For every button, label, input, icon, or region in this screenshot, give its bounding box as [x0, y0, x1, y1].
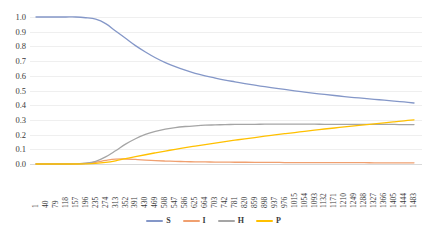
x-axis-tick-label: 430 [141, 168, 149, 208]
x-axis-tick-label: 976 [281, 168, 289, 208]
y-axis-tick-label: 0.3 [15, 116, 26, 125]
y-axis-tick-label: 0.5 [15, 86, 26, 95]
x-axis-tick-label: 586 [181, 168, 189, 208]
x-axis-tick-label: 391 [131, 168, 139, 208]
x-axis-tick-label: 898 [261, 168, 269, 208]
legend-label: I [203, 217, 206, 225]
x-axis-tick-label: 1015 [291, 168, 299, 208]
x-axis-tick-label: 1093 [311, 168, 319, 208]
series-line-h [36, 124, 414, 164]
chart-legend: SIHP [0, 217, 427, 225]
x-axis-tick-label: 547 [171, 168, 179, 208]
plot-area-wrapper: 0.00.10.20.30.40.50.60.70.80.91.0 140791… [0, 0, 427, 200]
x-axis-tick-label: 859 [251, 168, 259, 208]
x-axis-tick-label: 1171 [330, 168, 338, 208]
x-axis-tick-label: 274 [102, 168, 110, 208]
y-axis-tick-label: 0.0 [15, 160, 26, 169]
y-axis-tick-labels: 0.00.10.20.30.40.50.60.70.80.91.0 [0, 0, 30, 200]
legend-item-h[interactable]: H [218, 217, 244, 225]
y-axis-tick-label: 0.9 [15, 27, 26, 36]
legend-item-i[interactable]: I [183, 217, 206, 225]
legend-item-p[interactable]: P [256, 217, 281, 225]
y-axis-tick-label: 0.2 [15, 130, 26, 139]
y-axis-tick-label: 0.1 [15, 145, 26, 154]
y-axis-tick-label: 0.8 [15, 42, 26, 51]
x-axis-tick-labels: 1407911815719623527431335239143046950854… [30, 166, 422, 208]
x-axis-tick-label: 1054 [301, 168, 309, 208]
series-line-s [36, 17, 414, 103]
x-axis-tick-label: 196 [82, 168, 90, 208]
x-axis-tick-label: 1327 [370, 168, 378, 208]
legend-label: S [166, 217, 170, 225]
x-axis-tick-label: 352 [122, 168, 130, 208]
x-axis-tick-label: 781 [231, 168, 239, 208]
legend-label: H [238, 217, 244, 225]
x-axis-tick-label: 1 [32, 168, 40, 208]
x-axis-tick-label: 118 [62, 168, 70, 208]
x-axis-tick-label: 1405 [390, 168, 398, 208]
x-axis-tick-label: 703 [211, 168, 219, 208]
x-axis-tick-label: 1210 [340, 168, 348, 208]
x-axis-tick-label: 820 [241, 168, 249, 208]
y-axis-tick-label: 0.7 [15, 57, 26, 66]
line-chart: 0.00.10.20.30.40.50.60.70.80.91.0 140791… [0, 0, 427, 227]
legend-swatch-icon [256, 220, 273, 222]
x-axis-tick-label: 79 [52, 168, 60, 208]
x-axis-tick-label: 235 [92, 168, 100, 208]
y-axis-tick-label: 0.4 [15, 101, 26, 110]
legend-swatch-icon [218, 220, 235, 222]
x-axis-tick-label: 625 [191, 168, 199, 208]
x-axis-tick-label: 157 [72, 168, 80, 208]
x-axis-tick-label: 469 [151, 168, 159, 208]
x-axis-tick-label: 1132 [320, 168, 328, 208]
x-axis-tick-label: 1249 [350, 168, 358, 208]
series-line-p [36, 120, 414, 164]
x-axis-tick-label: 1288 [360, 168, 368, 208]
x-axis-tick-label: 40 [42, 168, 50, 208]
x-axis-tick-label: 937 [271, 168, 279, 208]
x-axis-tick-label: 1483 [410, 168, 418, 208]
legend-swatch-icon [146, 220, 163, 222]
x-axis-tick-label: 1366 [380, 168, 388, 208]
legend-label: P [276, 217, 281, 225]
y-axis-tick-label: 0.6 [15, 72, 26, 81]
y-axis-tick-label: 1.0 [15, 13, 26, 22]
x-axis-tick-label: 664 [201, 168, 209, 208]
x-axis-tick-label: 1444 [400, 168, 408, 208]
x-axis-tick-label: 508 [161, 168, 169, 208]
legend-item-s[interactable]: S [146, 217, 170, 225]
x-axis-tick-label: 742 [221, 168, 229, 208]
x-axis-tick-label: 313 [112, 168, 120, 208]
legend-swatch-icon [183, 220, 200, 222]
